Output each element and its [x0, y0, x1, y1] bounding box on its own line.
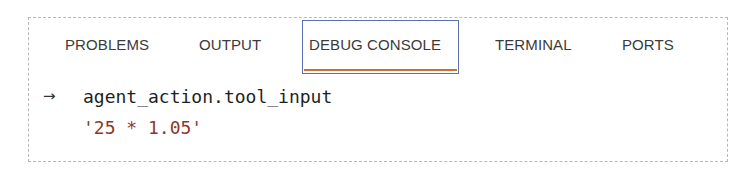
tab-output[interactable]: OUTPUT — [199, 36, 261, 53]
panel-tab-bar: PROBLEMS OUTPUT DEBUG CONSOLE TERMINAL P… — [29, 18, 727, 78]
console-expression: agent_action.tool_input — [83, 86, 332, 107]
debug-panel: PROBLEMS OUTPUT DEBUG CONSOLE TERMINAL P… — [28, 17, 728, 162]
tab-ports[interactable]: PORTS — [622, 36, 674, 53]
active-tab-underline — [304, 69, 457, 71]
tab-debug-console[interactable]: DEBUG CONSOLE — [309, 36, 441, 53]
tab-problems[interactable]: PROBLEMS — [65, 36, 149, 53]
arrow-right-icon: → — [43, 87, 56, 105]
console-result: '25 * 1.05' — [83, 117, 202, 138]
tab-terminal[interactable]: TERMINAL — [495, 36, 572, 53]
